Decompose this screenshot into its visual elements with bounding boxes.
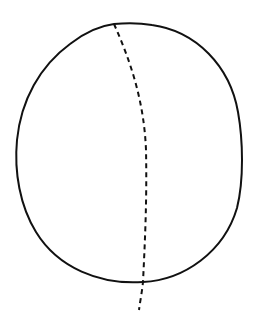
dashed-midline	[114, 24, 146, 310]
rounded-outline-shape	[16, 23, 242, 282]
diagram-canvas	[0, 0, 256, 316]
